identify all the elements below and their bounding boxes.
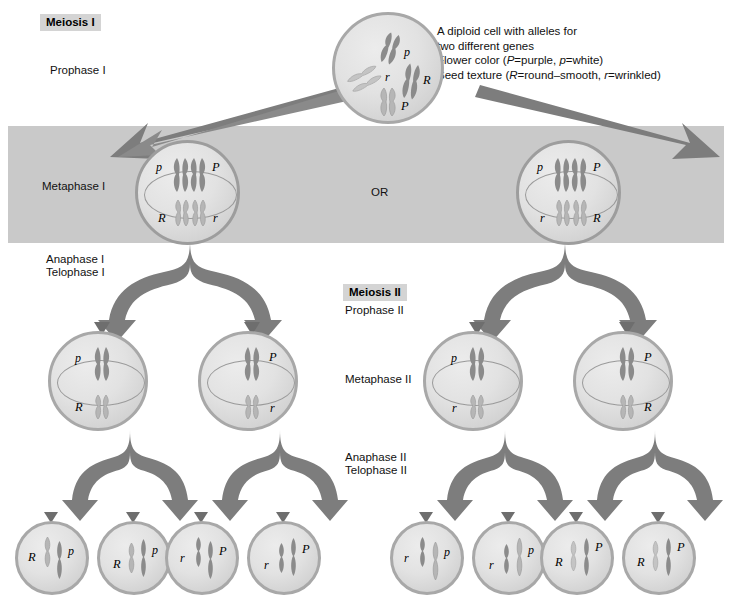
diploid-parent-cell: p r R P — [332, 12, 444, 124]
chromatid-left-g6 — [502, 543, 511, 575]
allele-label-parent-R: R — [423, 73, 431, 88]
chromosome-P-dark-m1r — [568, 157, 590, 193]
allele-label-g8-left: R — [637, 555, 645, 570]
meiosis-i-header: Meiosis I — [40, 14, 101, 31]
allele-label-m2-4-bottom: R — [644, 400, 652, 415]
chromosome-top-m2-4 — [617, 346, 637, 382]
chromatid-left-g5 — [418, 536, 427, 568]
chromatid-right-g3 — [206, 540, 215, 580]
allele-label-m2-2-top: P — [269, 350, 277, 365]
allele-label-parent-r: r — [385, 70, 390, 85]
allele-label-g2-right: p — [152, 543, 158, 558]
chromatid-left-g8 — [651, 540, 660, 572]
chromosome-top-m2-2 — [242, 346, 262, 382]
chromatid-left-g4 — [277, 542, 286, 574]
arrow-fork-meiosis-ii-1 — [55, 428, 205, 523]
gamete-cell-6: r p — [472, 521, 546, 595]
allele-label-m1l-top-right: P — [212, 160, 220, 175]
allele-label-m1r-top-right: P — [593, 160, 601, 175]
allele-label-m1r-bottom-right: R — [593, 211, 601, 226]
gamete-cell-2: R p — [97, 521, 171, 595]
chromosome-top-m2-1 — [92, 346, 112, 382]
allele-label-g4-right: P — [302, 542, 310, 557]
chromosome-bottom-m2-2 — [243, 394, 261, 420]
legend-line-2: two different genes — [437, 39, 687, 54]
chromosome-R-light-m1r — [570, 199, 590, 227]
chromosome-R-dark — [399, 63, 423, 101]
allele-label-g3-right: P — [219, 544, 227, 559]
chromatid-right-g6 — [515, 537, 524, 577]
allele-label-g5-left: r — [404, 551, 409, 566]
allele-label-m2-4-top: P — [644, 350, 652, 365]
arrow-fork-meiosis-i-right — [455, 238, 675, 343]
gamete-cell-1: R p — [15, 521, 89, 595]
legend-block: A diploid cell with alleles for two diff… — [437, 24, 687, 82]
allele-label-m2-1-bottom: R — [75, 400, 83, 415]
allele-label-g8-right: P — [677, 540, 685, 555]
metaphase-ii-cell-4: P R — [573, 331, 673, 431]
gamete-cell-5: r p — [390, 521, 464, 595]
allele-label-m1r-bottom-left: r — [540, 211, 545, 226]
allele-label-g4-left: r — [264, 558, 269, 573]
metaphase-i-cell-left: p P R r — [135, 140, 240, 245]
meiosis-ii-header: Meiosis II — [343, 284, 407, 301]
allele-label-parent-p: p — [404, 45, 410, 60]
allele-label-m2-1-top: p — [75, 351, 81, 366]
arrow-fork-meiosis-ii-3 — [430, 428, 580, 523]
allele-label-m2-3-top: p — [451, 351, 457, 366]
gamete-cell-4: r P — [247, 521, 321, 595]
gamete-cell-8: R P — [622, 521, 696, 595]
metaphase-ii-cell-3: p r — [423, 331, 523, 431]
allele-label-g3-left: r — [180, 551, 185, 566]
chromatid-left-g3 — [194, 536, 203, 568]
arrow-fork-meiosis-ii-2 — [205, 428, 355, 523]
chromatid-left-g2 — [127, 542, 136, 574]
allele-label-g1-right: p — [68, 544, 74, 559]
allele-label-m1r-top-left: p — [537, 160, 543, 175]
allele-label-m1l-top-left: p — [156, 160, 162, 175]
chromatid-right-g1 — [55, 540, 64, 580]
metaphase-ii-cell-1: p R — [48, 331, 148, 431]
allele-label-m2-3-bottom: r — [452, 401, 457, 416]
allele-label-g7-right: P — [595, 540, 603, 555]
chromatid-right-g5 — [431, 541, 440, 581]
phase-label-metaphase-ii: Metaphase II — [345, 372, 411, 386]
phase-label-metaphase-i: Metaphase I — [42, 179, 105, 193]
chromosome-P-light — [376, 87, 400, 117]
legend-line-3: Flower color (P=purple, p=white) — [437, 53, 687, 68]
allele-label-parent-P: P — [401, 99, 409, 114]
metaphase-i-cell-right: p P r R — [516, 140, 621, 245]
chromatid-left-g1 — [43, 536, 52, 568]
allele-label-g6-right: p — [528, 543, 534, 558]
chromosome-r-light-m1l — [189, 199, 209, 227]
allele-label-m1l-bottom-right: r — [213, 211, 218, 226]
arrow-parent-to-metaphase-left — [100, 85, 360, 165]
chromosome-bottom-m2-3 — [468, 394, 486, 420]
gamete-cell-3: r P — [165, 521, 239, 595]
allele-label-g1-left: R — [28, 550, 36, 565]
metaphase-ii-cell-2: P r — [198, 331, 298, 431]
allele-label-g5-right: p — [444, 545, 450, 560]
chromatid-right-g4 — [289, 537, 298, 577]
chromosome-p-dark — [377, 32, 403, 66]
allele-label-m2-2-bottom: r — [270, 401, 275, 416]
chromosome-P-dark-m1l — [187, 157, 209, 193]
legend-line-4: Seed texture (R=round–smooth, r=wrinkled… — [437, 68, 687, 83]
arrow-fork-meiosis-i-left — [80, 238, 300, 343]
allele-label-g7-left: R — [555, 555, 563, 570]
or-label: OR — [371, 186, 388, 198]
allele-label-g2-left: R — [113, 557, 121, 572]
chromosome-bottom-m2-1 — [93, 394, 111, 420]
phase-label-prophase-ii: Prophase II — [345, 303, 404, 317]
gamete-cell-7: R P — [540, 521, 614, 595]
chromatid-left-g7 — [569, 540, 578, 572]
allele-label-g6-left: r — [489, 558, 494, 573]
legend-line-1: A diploid cell with alleles for — [437, 24, 687, 39]
phase-label-prophase-i: Prophase I — [50, 63, 106, 77]
meiosis-diagram: Meiosis I Meiosis II Prophase I Metaphas… — [0, 0, 732, 611]
allele-label-m1l-bottom-left: R — [158, 211, 166, 226]
chromatid-right-g7 — [582, 537, 591, 577]
chromatid-right-g8 — [664, 537, 673, 577]
chromatid-right-g2 — [139, 538, 148, 578]
arrow-fork-meiosis-ii-4 — [580, 428, 730, 523]
